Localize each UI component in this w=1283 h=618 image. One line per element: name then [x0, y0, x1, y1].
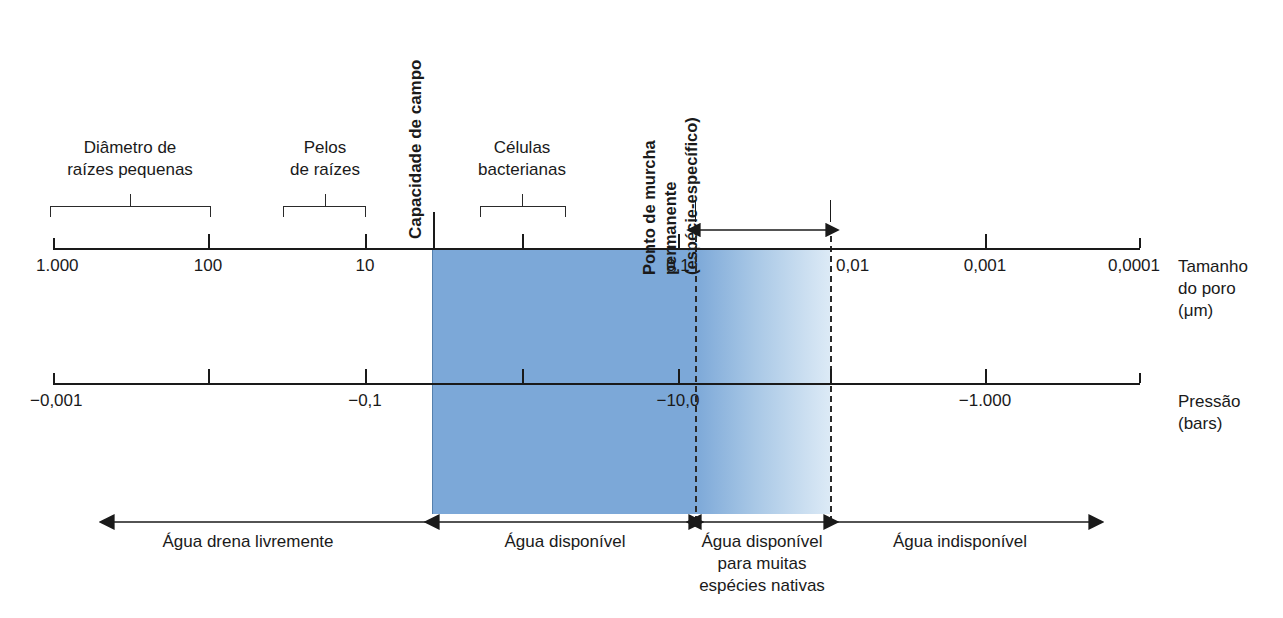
pore-size-tick-0-001	[985, 234, 987, 248]
pore-size-label-100: 100	[194, 256, 222, 276]
bracket-stem	[325, 194, 326, 206]
pressure-axis-title: Pressão (bars)	[1178, 391, 1240, 435]
zone-arrow-native-species	[695, 514, 830, 530]
pore-size-axis-endcap-right	[1139, 238, 1141, 248]
zone-caption-available-water: Água disponível	[505, 531, 626, 553]
bracket-end-left	[480, 206, 481, 217]
pore-size-axis-title-line2: do poro	[1178, 278, 1248, 300]
bracket-stem	[130, 194, 131, 206]
pressure-tick-0-1	[365, 369, 367, 383]
pore-size-label-1000: 1.000	[36, 256, 79, 276]
group-label-line1: Diâmetro de	[67, 137, 193, 159]
group-label-line2: bacterianas	[478, 159, 566, 181]
pore-size-label-0-0001: 0,0001	[1108, 256, 1160, 276]
bracket-bar	[50, 206, 210, 207]
pressure-label-0-001: −0,001	[30, 391, 82, 411]
field-capacity-label: Capacidade de campo	[405, 59, 426, 239]
field-capacity-band-edge	[432, 248, 433, 514]
wilting-range-tick-left	[695, 200, 696, 222]
group-label-bacterial-cells: Células bacterianas	[478, 137, 566, 181]
pressure-label-10: −10,0	[656, 391, 699, 411]
zone-caption-line1: Água disponível	[699, 531, 825, 553]
wilting-point-line1: Ponto de murcha	[639, 117, 660, 275]
group-label-line2: raízes pequenas	[67, 159, 193, 181]
wilting-point-line2: permanente	[660, 117, 681, 275]
zone-caption-native-species: Água disponível para muitas espécies nat…	[699, 531, 825, 597]
water-band-gradient	[695, 248, 830, 514]
pressure-axis-line	[53, 383, 1140, 385]
pressure-tick-c	[830, 369, 832, 383]
pore-size-label-0-01: 0,01	[836, 256, 869, 276]
pressure-label-1000: −1.000	[959, 391, 1011, 411]
group-label-root-hairs: Pelos de raízes	[290, 137, 360, 181]
zone-caption-unavailable-water: Água indisponível	[893, 531, 1027, 553]
pressure-tick-1000	[985, 369, 987, 383]
pressure-axis-title-line2: (bars)	[1178, 413, 1240, 435]
zone-arrow-free-draining	[108, 514, 433, 530]
zone-caption-line3: espécies nativas	[699, 575, 825, 597]
pore-size-tick-100	[208, 234, 210, 248]
zone-caption-line2: para muitas	[699, 553, 825, 575]
pressure-tick-10	[678, 369, 680, 383]
wilting-point-line3: (espécie-específico)	[681, 117, 702, 275]
water-band-solid	[433, 248, 695, 514]
zone-caption-line1: Água drena livremente	[162, 531, 333, 553]
pore-size-axis-endcap-left	[53, 238, 55, 248]
pore-size-tick-0-1	[678, 234, 680, 248]
zone-caption-free-draining: Água drena livremente	[162, 531, 333, 553]
group-label-line1: Pelos	[290, 137, 360, 159]
pore-size-axis-title: Tamanho do poro (μm)	[1178, 256, 1248, 322]
group-label-line1: Células	[478, 137, 566, 159]
pore-size-label-0-1: 0,1	[666, 256, 690, 276]
bracket-end-right	[210, 206, 211, 217]
pore-size-axis-title-line1: Tamanho	[1178, 256, 1248, 278]
pore-size-tick-10	[365, 234, 367, 248]
field-capacity-line	[433, 212, 435, 248]
pore-size-label-10: 10	[356, 256, 375, 276]
zone-arrow-available-water	[433, 514, 695, 530]
bracket-end-left	[50, 206, 51, 217]
pressure-label-0-1: −0,1	[348, 391, 382, 411]
bracket-stem	[522, 194, 523, 206]
zone-caption-line1: Água indisponível	[893, 531, 1027, 553]
pore-size-tick-1	[522, 234, 524, 248]
guide-dashed-wilting-left	[695, 236, 697, 522]
zone-caption-line1: Água disponível	[505, 531, 626, 553]
pore-size-axis-title-line3: (μm)	[1178, 300, 1248, 322]
pressure-axis-endcap-right	[1139, 373, 1141, 383]
pore-size-axis-line	[53, 248, 1140, 250]
wilting-range-tick-right	[830, 200, 831, 222]
group-label-root-diameter: Diâmetro de raízes pequenas	[67, 137, 193, 181]
pressure-tick-a	[208, 369, 210, 383]
bracket-end-left	[283, 206, 284, 217]
pressure-axis-endcap-left	[53, 373, 55, 383]
group-label-line2: de raízes	[290, 159, 360, 181]
wilting-point-label: Ponto de murcha permanente (espécie-espe…	[639, 117, 702, 275]
diagram-canvas: Diâmetro de raízes pequenas Pelos de raí…	[0, 0, 1283, 618]
zone-arrow-unavailable-water	[830, 514, 1095, 530]
bracket-bar	[283, 206, 365, 207]
pore-size-label-0-001: 0,001	[964, 256, 1007, 276]
pressure-axis-title-line1: Pressão	[1178, 391, 1240, 413]
pressure-tick-b	[522, 369, 524, 383]
bracket-end-right	[365, 206, 366, 217]
bracket-end-right	[565, 206, 566, 217]
bracket-bar	[480, 206, 565, 207]
water-content-band	[433, 248, 830, 514]
wilting-point-range-arrow	[695, 222, 831, 238]
